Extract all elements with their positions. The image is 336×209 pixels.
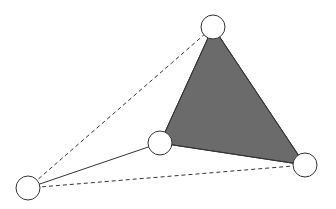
node-right	[293, 153, 317, 177]
edge-left-right-dashed	[28, 165, 305, 188]
nodes	[16, 15, 317, 200]
node-top	[201, 15, 225, 39]
node-left	[16, 176, 40, 200]
node-middle	[148, 131, 172, 155]
edge-left-middle	[28, 143, 160, 188]
graph-diagram	[0, 0, 336, 209]
